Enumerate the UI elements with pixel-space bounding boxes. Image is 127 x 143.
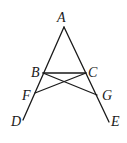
point-label-E: E (110, 114, 120, 129)
point-label-F: F (21, 88, 31, 103)
point-label-G: G (102, 88, 112, 103)
point-label-C: C (88, 65, 98, 80)
point-label-D: D (10, 114, 21, 129)
segment-AE (64, 27, 109, 122)
point-label-A: A (56, 10, 66, 25)
geometry-diagram: A B C D E F G (0, 0, 127, 143)
point-label-B: B (31, 65, 40, 80)
